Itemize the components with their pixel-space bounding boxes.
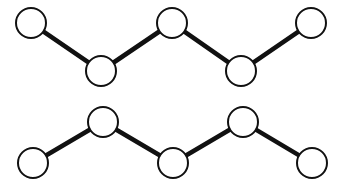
chain-node [18, 148, 48, 178]
zigzag-chain-diagram [0, 0, 343, 190]
chain-node [16, 8, 46, 38]
chain-node [228, 107, 258, 137]
chain-node [157, 8, 187, 38]
chain-node [297, 148, 327, 178]
chain-node [226, 56, 256, 86]
chain-node [296, 8, 326, 38]
chain-node [88, 107, 118, 137]
chain-node [86, 56, 116, 86]
chain-node [158, 148, 188, 178]
figure-root [0, 0, 343, 190]
